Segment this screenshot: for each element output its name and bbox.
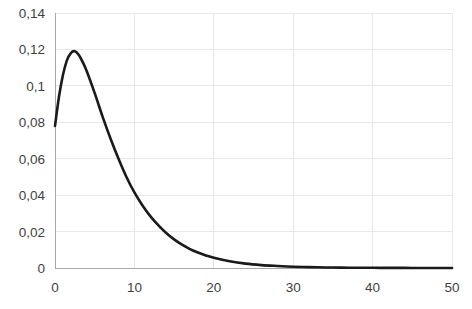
y-axis-tick-label: 0,02: [19, 225, 45, 240]
x-axis-tick-label: 50: [444, 280, 459, 295]
line-chart: 00,020,040,060,080,10,120,14 01020304050: [0, 0, 472, 309]
y-axis-tick-label: 0,08: [19, 115, 45, 130]
x-axis-tick-label: 40: [365, 280, 380, 295]
chart-container: 00,020,040,060,080,10,120,14 01020304050: [0, 0, 472, 309]
y-axis-tick-label: 0: [37, 261, 45, 276]
x-axis-tick-label: 20: [206, 280, 221, 295]
x-axis-tick-label: 0: [51, 280, 59, 295]
x-axis-tick-label: 30: [286, 280, 301, 295]
y-axis-tick-label: 0,14: [19, 6, 46, 21]
y-axis-tick-label: 0,06: [19, 152, 45, 167]
y-axis-tick-label: 0,1: [26, 79, 45, 94]
y-axis-tick-label: 0,12: [19, 42, 45, 57]
x-axis-tick-label: 10: [127, 280, 142, 295]
y-axis-tick-label: 0,04: [19, 188, 46, 203]
